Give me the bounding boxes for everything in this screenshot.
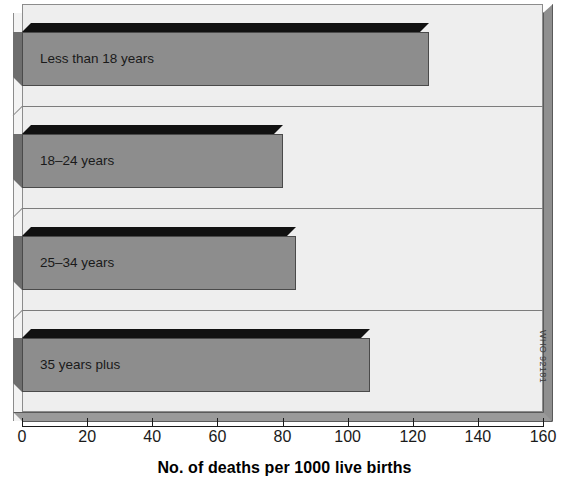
plot-area-3d: Less than 18 years18–24 years25–34 years… — [13, 4, 553, 425]
x-axis-tick — [283, 418, 284, 427]
x-axis-tick-label: 60 — [208, 428, 226, 446]
bar-side-face — [13, 134, 22, 188]
x-axis-tick — [22, 418, 23, 427]
x-axis-title: No. of deaths per 1000 live births — [0, 459, 569, 477]
bar-category-label: 18–24 years — [40, 153, 114, 168]
x-axis-tick — [152, 418, 153, 427]
x-axis-tick — [413, 418, 414, 427]
gridline — [22, 310, 543, 311]
x-axis-tick — [348, 418, 349, 427]
bar-category-label: 35 years plus — [40, 357, 120, 372]
x-axis-tick-label: 80 — [274, 428, 292, 446]
x-axis-tick — [87, 418, 88, 427]
bar-top-face — [22, 329, 370, 338]
x-axis-tick-label: 0 — [18, 428, 27, 446]
gridline — [22, 208, 543, 209]
x-axis-tick — [217, 418, 218, 427]
bar-side-face — [13, 236, 22, 290]
bar-top-face — [22, 227, 296, 236]
who-credit-label: WHO 92181 — [538, 330, 548, 383]
x-axis-tick-label: 120 — [399, 428, 426, 446]
bar-category-label: Less than 18 years — [40, 51, 154, 66]
bar-side-face — [13, 338, 22, 392]
bar-side-face — [13, 32, 22, 86]
bar-top-face — [22, 125, 283, 134]
gridline — [22, 106, 543, 107]
x-axis-tick — [478, 418, 479, 427]
x-axis-tick-label: 100 — [334, 428, 361, 446]
x-axis-tick-label: 140 — [465, 428, 492, 446]
x-axis-tick-label: 160 — [530, 428, 557, 446]
chart-figure: Less than 18 years18–24 years25–34 years… — [0, 0, 569, 492]
x-axis-tick-label: 20 — [78, 428, 96, 446]
x-axis-tick-label: 40 — [143, 428, 161, 446]
bar-category-label: 25–34 years — [40, 255, 114, 270]
bar-top-face — [22, 23, 429, 32]
x-axis-tick — [543, 418, 544, 427]
